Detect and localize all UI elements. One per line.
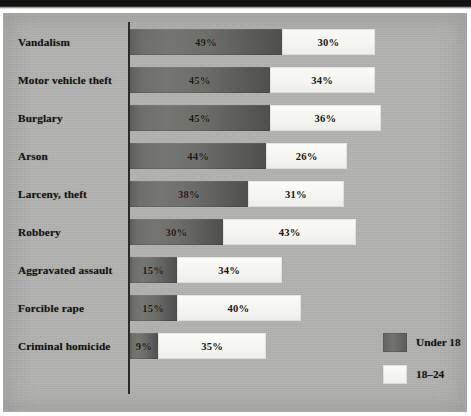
bar-segment-under-18: 15% (130, 257, 177, 283)
bar-value-18-24: 36% (314, 113, 336, 124)
legend-label-under-18: Under 18 (416, 336, 461, 348)
bar-value-18-24: 30% (317, 37, 339, 48)
bar-segment-under-18: 45% (130, 67, 270, 93)
bar-value-under-18: 38% (178, 189, 200, 200)
bar-value-18-24: 34% (218, 265, 240, 276)
bar-segment-18-24: 34% (177, 257, 282, 283)
legend-item-under-18: Under 18 (383, 331, 467, 353)
bar-row-label: Vandalism (18, 29, 70, 55)
bar-segment-under-18: 9% (130, 333, 158, 359)
bar-row: Forcible rape15%40% (3, 295, 467, 321)
stacked-bar: 45%34% (130, 67, 375, 93)
legend-swatch-18-24-icon (383, 365, 407, 384)
bar-value-18-24: 40% (228, 303, 250, 314)
bar-segment-18-24: 43% (223, 219, 356, 245)
stacked-bar: 15%34% (130, 257, 282, 283)
bar-value-under-18: 45% (189, 75, 211, 86)
bar-segment-under-18: 49% (130, 29, 282, 55)
legend-label-18-24: 18–24 (416, 368, 444, 380)
stacked-bar: 49%30% (130, 29, 375, 55)
bar-row-label: Motor vehicle theft (18, 67, 112, 93)
bar-row-label: Forcible rape (18, 295, 84, 321)
bar-row: Aggravated assault15%34% (3, 257, 467, 283)
bar-value-under-18: 9% (136, 341, 152, 352)
bar-value-18-24: 43% (279, 227, 301, 238)
bar-value-under-18: 30% (166, 227, 188, 238)
bar-segment-18-24: 36% (270, 105, 382, 131)
bar-segment-18-24: 40% (177, 295, 301, 321)
bar-row: Robbery30%43% (3, 219, 467, 245)
bar-row: Motor vehicle theft45%34% (3, 67, 467, 93)
bar-row-label: Burglary (18, 105, 63, 131)
stacked-bar: 9%35% (130, 333, 266, 359)
bar-segment-18-24: 35% (158, 333, 267, 359)
stacked-bar: 45%36% (130, 105, 381, 131)
bar-value-under-18: 15% (142, 265, 164, 276)
bar-segment-18-24: 31% (248, 181, 344, 207)
bar-value-18-24: 31% (285, 189, 307, 200)
chart-panel: Vandalism49%30%Motor vehicle theft45%34%… (3, 13, 467, 412)
stacked-bar: 44%26% (130, 143, 347, 169)
bar-segment-18-24: 34% (270, 67, 375, 93)
bar-value-18-24: 35% (201, 341, 223, 352)
bar-row-label: Larceny, theft (18, 181, 87, 207)
bar-value-18-24: 26% (296, 151, 318, 162)
bar-value-under-18: 15% (142, 303, 164, 314)
bar-row-label: Robbery (18, 219, 61, 245)
bar-row-label: Criminal homicide (18, 333, 110, 359)
bar-row: Burglary45%36% (3, 105, 467, 131)
bar-value-under-18: 49% (195, 37, 217, 48)
bar-segment-under-18: 30% (130, 219, 223, 245)
bar-segment-under-18: 15% (130, 295, 177, 321)
stacked-bar: 15%40% (130, 295, 301, 321)
stacked-bar: 30%43% (130, 219, 356, 245)
bar-segment-18-24: 26% (266, 143, 347, 169)
bar-segment-18-24: 30% (282, 29, 375, 55)
bar-row-label: Arson (18, 143, 48, 169)
bar-value-18-24: 34% (311, 75, 333, 86)
bar-row-label: Aggravated assault (18, 257, 112, 283)
chart-page: Vandalism49%30%Motor vehicle theft45%34%… (0, 0, 471, 416)
stacked-bar: 38%31% (130, 181, 344, 207)
bar-row: Vandalism49%30% (3, 29, 467, 55)
bar-value-under-18: 44% (187, 151, 209, 162)
bar-segment-under-18: 38% (130, 181, 248, 207)
legend-swatch-under-18-icon (383, 333, 407, 352)
legend-item-18-24: 18–24 (383, 363, 467, 385)
chart-legend: Under 18 18–24 (383, 331, 467, 395)
bar-row: Arson44%26% (3, 143, 467, 169)
page-top-strip-fade (0, 6, 471, 9)
bar-segment-under-18: 44% (130, 143, 266, 169)
bar-row: Larceny, theft38%31% (3, 181, 467, 207)
bar-segment-under-18: 45% (130, 105, 270, 131)
bar-value-under-18: 45% (189, 113, 211, 124)
